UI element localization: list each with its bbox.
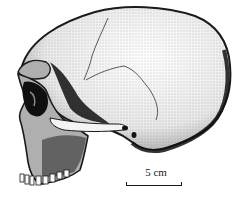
scale-bar [126,182,182,186]
scale-bar-label: 5 cm [128,166,184,178]
skull-illustration [0,0,241,203]
figure-canvas: 5 cm [0,0,241,203]
